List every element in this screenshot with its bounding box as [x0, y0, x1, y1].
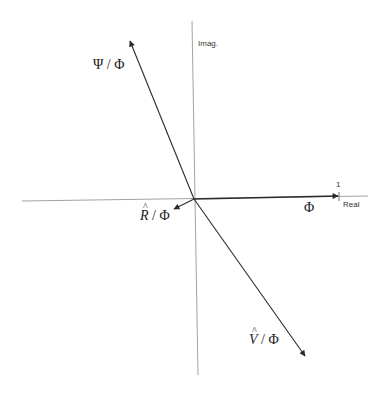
v-label-sep: /: [258, 332, 269, 347]
psi-label-main: Ψ: [93, 57, 103, 72]
r-label-sep: /: [149, 208, 160, 223]
unit-tick-label: 1: [336, 181, 340, 189]
r-label: R / Φ: [140, 209, 170, 223]
phi-vector: [194, 196, 338, 199]
r-vector: [174, 199, 194, 209]
psi-label-sep: /: [103, 57, 114, 72]
real-axis-label: Real: [343, 201, 359, 209]
r-label-main: R: [140, 209, 149, 223]
v-label-main: V: [249, 333, 258, 347]
v-label: V / Φ: [249, 333, 279, 347]
psi-label: Ψ / Φ: [93, 58, 124, 72]
diagram-graphics: [0, 0, 386, 400]
imag-axis-label: Imag.: [198, 40, 218, 48]
phasor-diagram: Imag. Real 1 Φ Ψ / Φ R / Φ V / Φ: [0, 0, 386, 400]
phi-label: Φ: [304, 201, 314, 215]
imag-axis: [192, 21, 198, 375]
v-label-den: Φ: [268, 332, 278, 347]
r-label-den: Φ: [159, 208, 169, 223]
psi-vector: [130, 41, 194, 199]
psi-label-den: Φ: [114, 57, 124, 72]
